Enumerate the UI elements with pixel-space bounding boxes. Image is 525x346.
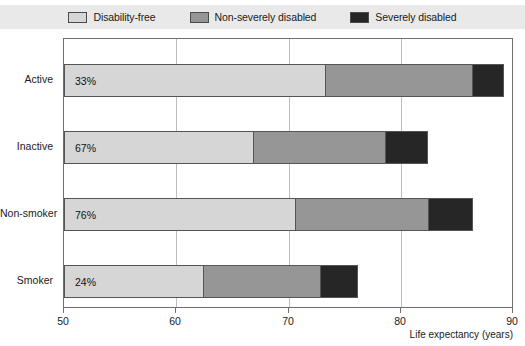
legend-item-non-severely-disabled: Non-severely disabled bbox=[190, 11, 317, 23]
bar-row-active[interactable]: 33% bbox=[64, 64, 504, 97]
bar-row-inactive[interactable]: 67% bbox=[64, 131, 428, 164]
chart-legend: Disability-free Non-severely disabled Se… bbox=[0, 5, 525, 29]
x-axis-title: Life expectancy (years) bbox=[410, 329, 513, 340]
bar-row-non-smoker[interactable]: 76% bbox=[64, 198, 473, 231]
bar-segment-non-severely-disabled[interactable] bbox=[204, 265, 321, 298]
bar-row-smoker[interactable]: 24% bbox=[64, 265, 358, 298]
x-tick-label-70: 70 bbox=[282, 315, 294, 327]
legend-label-severely-disabled: Severely disabled bbox=[375, 11, 456, 23]
y-axis-label-non-smoker: Non-smoker bbox=[0, 197, 58, 230]
legend-swatch-non-severely-disabled bbox=[190, 12, 209, 23]
bar-value-label: 67% bbox=[75, 142, 96, 154]
x-tick-mark-90 bbox=[512, 308, 513, 313]
bar-segment-severely-disabled[interactable] bbox=[473, 64, 504, 97]
y-axis-label-active: Active bbox=[0, 63, 58, 96]
x-tick-label-90: 90 bbox=[506, 315, 518, 327]
bar-segment-disability-free[interactable]: 33% bbox=[64, 64, 326, 97]
legend-swatch-disability-free bbox=[68, 12, 87, 23]
y-axis-label-inactive: Inactive bbox=[0, 130, 58, 163]
bar-segment-disability-free[interactable]: 76% bbox=[64, 198, 296, 231]
bar-segment-disability-free[interactable]: 24% bbox=[64, 265, 204, 298]
x-tick-mark-50 bbox=[63, 308, 64, 313]
x-tick-label-60: 60 bbox=[169, 315, 181, 327]
bar-segment-severely-disabled[interactable] bbox=[386, 131, 428, 164]
plot-area: 33% 67% 76% 24% bbox=[63, 38, 513, 308]
legend-label-non-severely-disabled: Non-severely disabled bbox=[215, 11, 317, 23]
bar-segment-severely-disabled[interactable] bbox=[321, 265, 358, 298]
legend-item-disability-free: Disability-free bbox=[68, 11, 155, 23]
legend-item-severely-disabled: Severely disabled bbox=[350, 11, 456, 23]
bar-segment-non-severely-disabled[interactable] bbox=[326, 64, 473, 97]
bar-segment-non-severely-disabled[interactable] bbox=[296, 198, 429, 231]
legend-swatch-severely-disabled bbox=[350, 12, 369, 23]
bar-segment-severely-disabled[interactable] bbox=[429, 198, 473, 231]
bar-value-label: 24% bbox=[75, 276, 96, 288]
x-tick-mark-70 bbox=[288, 308, 289, 313]
y-axis-labels: Active Inactive Non-smoker Smoker bbox=[0, 38, 58, 308]
x-tick-mark-60 bbox=[175, 308, 176, 313]
bar-segment-disability-free[interactable]: 67% bbox=[64, 131, 254, 164]
x-tick-label-50: 50 bbox=[57, 315, 69, 327]
x-tick-label-80: 80 bbox=[394, 315, 406, 327]
y-axis-label-smoker: Smoker bbox=[0, 264, 58, 297]
x-tick-mark-80 bbox=[400, 308, 401, 313]
bar-segment-non-severely-disabled[interactable] bbox=[254, 131, 386, 164]
bar-value-label: 33% bbox=[75, 75, 96, 87]
legend-label-disability-free: Disability-free bbox=[93, 11, 155, 23]
bar-value-label: 76% bbox=[75, 209, 96, 221]
